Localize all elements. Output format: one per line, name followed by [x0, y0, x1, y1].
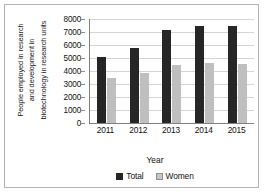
y-axis-tick-label: 7000	[64, 28, 81, 37]
bar-women-2013[interactable]	[172, 65, 181, 123]
x-axis-tick-label: 2015	[222, 125, 252, 135]
y-axis-tick-mark	[81, 45, 85, 46]
y-axis-title-line-3: biotechnology in research units	[38, 11, 49, 129]
y-axis-title-line-1: People employed in research	[15, 11, 26, 129]
y-axis-tick-label: 3000	[64, 80, 81, 89]
y-axis-tick-mark	[81, 58, 85, 59]
legend-item-women[interactable]: Women	[156, 171, 194, 181]
bar-women-2015[interactable]	[238, 64, 247, 123]
bar-women-2014[interactable]	[205, 63, 214, 123]
bar-total-2011[interactable]	[97, 57, 106, 123]
chart-container: People employed in research and developm…	[4, 4, 259, 188]
bar-total-2012[interactable]	[130, 48, 139, 123]
bar-total-2013[interactable]	[162, 30, 171, 123]
chart-legend: Total Women	[57, 171, 253, 181]
bar-group	[124, 19, 154, 123]
dark-square-swatch-icon	[116, 173, 123, 180]
legend-item-total[interactable]: Total	[116, 171, 143, 181]
y-axis-tick-mark	[81, 97, 85, 98]
y-axis-tick-mark	[81, 84, 85, 85]
bar-group	[92, 19, 122, 123]
y-axis-tick-mark	[81, 32, 85, 33]
bar-total-2015[interactable]	[228, 26, 237, 123]
legend-label-women: Women	[166, 171, 194, 181]
y-axis-tick-mark	[81, 71, 85, 72]
y-axis-title: People employed in research and developm…	[15, 11, 49, 129]
bars-layer	[90, 19, 254, 123]
light-square-swatch-icon	[156, 173, 163, 180]
legend-label-total: Total	[126, 171, 143, 181]
bar-group	[157, 19, 187, 123]
x-axis-tick-labels: 20112012201320142015	[89, 125, 253, 139]
y-axis-tick-mark	[81, 123, 85, 124]
bar-group	[223, 19, 253, 123]
x-axis-tick-label: 2011	[91, 125, 121, 135]
y-axis-tick-mark	[81, 19, 85, 20]
y-axis-tick-label: 1000	[64, 106, 81, 115]
x-axis-tick-label: 2014	[189, 125, 219, 135]
x-axis-title: Year	[57, 155, 253, 165]
y-axis-tick-label: 6000	[64, 41, 81, 50]
bar-total-2014[interactable]	[195, 26, 204, 124]
plot-wrapper: 010002000300040005000600070008000 201120…	[57, 19, 253, 141]
bar-women-2012[interactable]	[140, 73, 149, 123]
y-axis-tick-label: 2000	[64, 93, 81, 102]
y-axis-tick-mark	[81, 110, 85, 111]
x-axis-tick-label: 2012	[123, 125, 153, 135]
bar-group	[190, 19, 220, 123]
y-axis-title-line-2: and development in	[26, 11, 37, 129]
y-axis-tick-label: 8000	[64, 15, 81, 24]
y-axis-tick-label: 4000	[64, 67, 81, 76]
y-axis-tick-labels: 010002000300040005000600070008000	[57, 19, 85, 123]
y-axis-tick-label: 5000	[64, 54, 81, 63]
plot-area	[89, 19, 254, 124]
x-axis-tick-label: 2013	[156, 125, 186, 135]
bar-women-2011[interactable]	[107, 78, 116, 123]
